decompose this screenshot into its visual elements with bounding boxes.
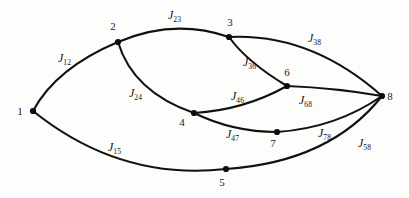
edges-layer [33, 29, 382, 171]
edge-labels-layer: J12J23J24J36J38J46J47J68J78J15J58 [58, 8, 371, 156]
node-label-7: 7 [270, 137, 276, 149]
node-labels-layer: 12345678 [17, 16, 393, 188]
graph-node-5 [223, 166, 229, 172]
graph-edge-2-3 [118, 29, 229, 42]
graph-node-2 [115, 39, 121, 45]
edge-label-1-5: J15 [108, 140, 121, 156]
graph-node-7 [274, 129, 280, 135]
node-label-4: 4 [179, 116, 185, 128]
graph-diagram: J12J23J24J36J38J46J47J68J78J15J58 123456… [0, 0, 409, 198]
node-label-6: 6 [284, 66, 290, 78]
node-label-1: 1 [17, 105, 23, 117]
edge-label-2-3: J23 [168, 8, 181, 24]
node-label-5: 5 [219, 176, 225, 188]
edge-label-6-8: J68 [299, 93, 312, 109]
edge-label-subscript: 47 [231, 134, 239, 143]
graph-node-8 [379, 93, 385, 99]
edge-label-7-8: J78 [318, 126, 331, 142]
graph-edge-1-2 [33, 42, 118, 111]
edge-label-3-8: J38 [308, 31, 321, 47]
edge-label-subscript: 58 [363, 143, 371, 152]
edge-label-3-6: J36 [243, 55, 256, 71]
graph-node-4 [191, 110, 197, 116]
edge-label-4-6: J46 [231, 89, 244, 105]
node-label-8: 8 [387, 90, 393, 102]
nodes-layer [30, 34, 385, 172]
graph-edge-3-6 [229, 37, 287, 86]
graph-canvas: J12J23J24J36J38J46J47J68J78J15J58 123456… [0, 0, 409, 198]
edge-label-subscript: 24 [134, 93, 142, 102]
edge-label-5-8: J58 [358, 136, 371, 152]
edge-label-subscript: 36 [248, 62, 256, 71]
graph-edge-2-4 [118, 42, 194, 113]
edge-label-subscript: 78 [323, 133, 331, 142]
edge-label-subscript: 68 [304, 100, 312, 109]
graph-edge-4-7 [194, 113, 277, 132]
graph-node-1 [30, 108, 36, 114]
graph-node-3 [226, 34, 232, 40]
edge-label-subscript: 46 [236, 96, 244, 105]
edge-label-subscript: 15 [113, 147, 121, 156]
edge-label-subscript: 23 [173, 15, 181, 24]
node-label-3: 3 [227, 16, 233, 28]
edge-label-2-4: J24 [129, 86, 142, 102]
node-label-2: 2 [110, 20, 116, 32]
edge-label-subscript: 12 [63, 58, 71, 67]
edge-label-1-2: J12 [58, 51, 71, 67]
edge-label-4-7: J47 [226, 127, 239, 143]
graph-edge-1-5 [33, 111, 226, 171]
graph-node-6 [284, 83, 290, 89]
edge-label-subscript: 38 [313, 38, 321, 47]
